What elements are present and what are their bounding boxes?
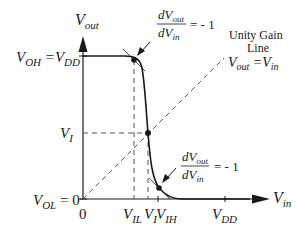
point-vil xyxy=(131,57,137,63)
svg-text:dVin: dVin xyxy=(182,167,204,184)
label-voh-vdd: VOH =VDD xyxy=(16,49,80,68)
label-vol-zero: VOL = 0 xyxy=(33,192,80,211)
label-vih: VIH xyxy=(156,206,178,225)
svg-text:Vout =Vin: Vout =Vin xyxy=(228,55,279,72)
svg-text:Unity Gain: Unity Gain xyxy=(229,28,283,42)
point-vi xyxy=(145,130,151,136)
y-axis-label: Vout xyxy=(75,11,100,31)
label-x-zero: 0 xyxy=(79,206,87,222)
svg-text:dVout: dVout xyxy=(158,7,184,24)
label-vi-y: VI xyxy=(60,125,74,144)
y-axis-arrow-icon xyxy=(79,36,88,52)
svg-text:= - 1: = - 1 xyxy=(190,17,215,32)
svg-text:Line: Line xyxy=(247,41,269,55)
svg-text:dVin: dVin xyxy=(158,25,180,42)
slope-annotation-bottom: dVout dVin = - 1 xyxy=(181,149,239,184)
unity-gain-label: Unity Gain Line Vout =Vin xyxy=(228,28,283,72)
arrow-bottom-line xyxy=(167,168,176,178)
x-axis-label: Vin xyxy=(273,189,292,209)
label-vil: VIL xyxy=(123,206,142,225)
label-vdd: VDD xyxy=(212,206,237,225)
svg-text:= - 1: = - 1 xyxy=(214,159,239,174)
slope-annotation-top: dVout dVin = - 1 xyxy=(157,7,215,42)
svg-text:dVout: dVout xyxy=(182,149,208,166)
x-axis-arrow-icon xyxy=(252,195,270,204)
vtc-diagram: Vout Vin VOH =VDD VI VOL = 0 0 VIL VI VI… xyxy=(0,0,299,233)
point-vih xyxy=(156,185,162,191)
